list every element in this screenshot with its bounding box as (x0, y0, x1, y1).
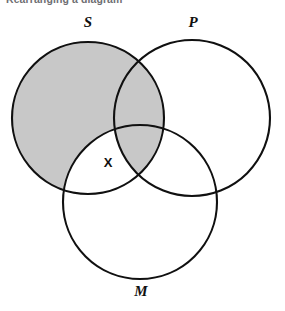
label-s: S (84, 14, 92, 30)
x-mark: X (104, 155, 113, 170)
venn-diagram-screen: Rearranging a diagram (0, 0, 285, 311)
label-m: M (133, 283, 148, 299)
shaded-region-s-except-sm (0, 0, 285, 311)
label-p: P (188, 14, 198, 30)
venn-diagram: S P M X (0, 0, 285, 311)
